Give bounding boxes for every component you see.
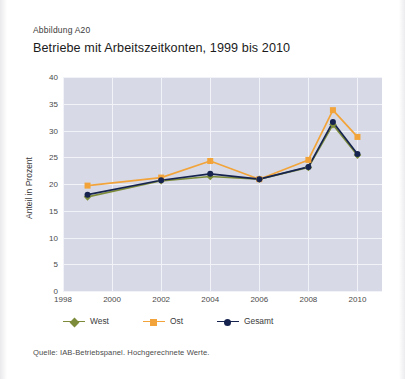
- source-note: Quelle: IAB-Betriebspanel. Hochgerechnet…: [33, 348, 209, 357]
- data-point-marker: [85, 192, 91, 198]
- data-point-marker: [207, 158, 213, 164]
- data-point-marker: [305, 164, 311, 170]
- legend-label: West: [90, 316, 109, 326]
- y-tick-label: 30: [49, 126, 58, 135]
- data-point-marker: [158, 177, 164, 183]
- y-tick-label: 25: [49, 153, 58, 162]
- data-point-marker: [256, 176, 262, 182]
- legend-key-icon: [217, 317, 239, 326]
- y-tick-label: 15: [49, 206, 58, 215]
- y-tick-label: 5: [54, 260, 58, 269]
- data-point-marker: [330, 107, 336, 113]
- x-tick-label: 2004: [201, 295, 219, 304]
- y-tick-label: 40: [49, 73, 58, 82]
- series-line-gesamt: [88, 122, 358, 195]
- figure-page: Abbildung A20 Betriebe mit Arbeitszeitko…: [0, 0, 405, 379]
- x-tick-label: 2006: [250, 295, 268, 304]
- data-point-marker: [330, 119, 336, 125]
- x-tick-label: 2000: [103, 295, 121, 304]
- y-tick-label: 10: [49, 233, 58, 242]
- legend-item-gesamt[interactable]: Gesamt: [217, 316, 273, 326]
- data-point-marker: [207, 171, 213, 177]
- data-point-marker: [305, 157, 311, 163]
- y-tick-label: 35: [49, 99, 58, 108]
- legend-key-icon: [63, 317, 85, 326]
- x-tick-label: 2002: [152, 295, 170, 304]
- x-tick-label: 2010: [349, 295, 367, 304]
- y-tick-label: 20: [49, 180, 58, 189]
- x-tick-label: 1998: [54, 295, 72, 304]
- data-point-marker: [85, 183, 91, 189]
- figure-number: Abbildung A20: [33, 25, 90, 35]
- series-lines: [63, 77, 382, 291]
- plot-area: 0510152025303540 19982000200220042006200…: [63, 77, 382, 291]
- gridline-y: [63, 291, 382, 292]
- legend-label: Gesamt: [244, 316, 273, 326]
- legend-key-icon: [143, 317, 165, 326]
- series-line-ost: [88, 110, 358, 185]
- line-chart: Anteil in Prozent 0510152025303540 19982…: [33, 70, 383, 305]
- x-tick-label: 2008: [299, 295, 317, 304]
- data-point-marker: [354, 151, 360, 157]
- y-axis-title: Anteil in Prozent: [24, 157, 34, 219]
- chart-legend: WestOstGesamt: [63, 316, 273, 326]
- legend-label: Ost: [170, 316, 183, 326]
- legend-item-west[interactable]: West: [63, 316, 109, 326]
- legend-item-ost[interactable]: Ost: [143, 316, 183, 326]
- figure-title: Betriebe mit Arbeitszeitkonten, 1999 bis…: [33, 41, 290, 55]
- data-point-marker: [354, 134, 360, 140]
